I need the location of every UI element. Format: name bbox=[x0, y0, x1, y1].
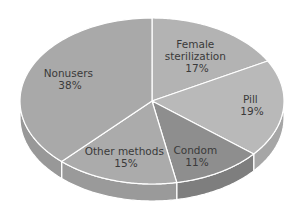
label-pill: Pill 19% bbox=[240, 93, 263, 117]
pie-chart: Female sterilization 17% Pill 19% Condom… bbox=[0, 0, 300, 221]
